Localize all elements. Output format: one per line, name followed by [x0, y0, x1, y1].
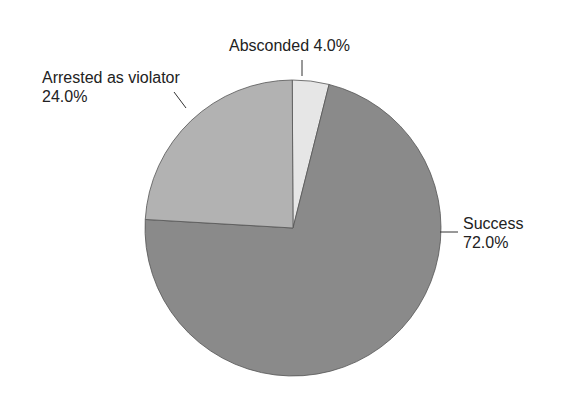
pie-chart: [0, 0, 567, 395]
label-absconded: Absconded 4.0%: [229, 36, 350, 55]
label-arrested-name: Arrested as violator: [42, 68, 180, 87]
label-success-name: Success: [463, 214, 523, 233]
pie-slices: [145, 80, 441, 376]
label-success: Success 72.0%: [463, 214, 523, 252]
label-success-value: 72.0%: [463, 233, 523, 252]
label-arrested: Arrested as violator 24.0%: [42, 68, 180, 106]
label-arrested-value: 24.0%: [42, 87, 180, 106]
